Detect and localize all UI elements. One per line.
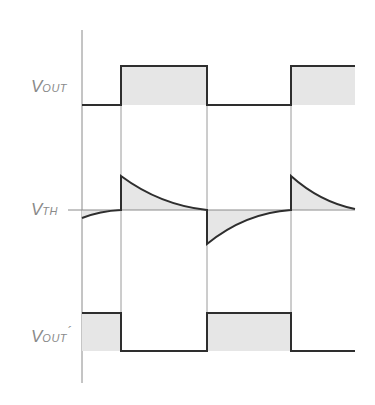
vout-high-fill-1 <box>121 66 207 105</box>
vout-label: VOUT <box>31 78 67 95</box>
vout-label-sub: OUT <box>42 82 67 94</box>
vout-label-main: V <box>31 77 42 96</box>
vout-prime-label: VOUT´ <box>31 328 71 345</box>
vth-fill-3 <box>291 176 355 210</box>
vout-high-fill-2 <box>291 66 355 105</box>
vth-fill-2 <box>207 210 291 244</box>
vout-prime-label-main: V <box>31 327 42 346</box>
vout-prime-label-sub: OUT <box>42 332 67 344</box>
vth-label-main: V <box>31 200 42 219</box>
vth-label: VTH <box>31 201 58 218</box>
vout-prime-high-fill-2 <box>207 313 291 351</box>
vth-label-sub: TH <box>42 205 58 217</box>
vout-prime-high-fill-1 <box>82 313 121 351</box>
vth-fill-1 <box>121 176 207 210</box>
prime-mark: ´ <box>67 324 71 339</box>
